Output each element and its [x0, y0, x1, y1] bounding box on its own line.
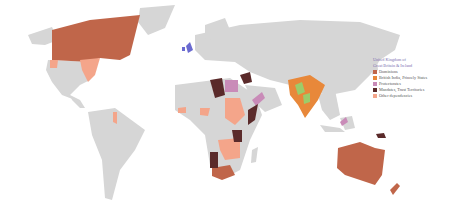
- legend-swatch-icon: [373, 76, 377, 80]
- world-map: [0, 0, 456, 213]
- legend-swatch-icon: [373, 70, 377, 74]
- legend-swatch-icon: [373, 88, 377, 92]
- legend-item-other-dependencies: Other dependencies: [373, 93, 427, 99]
- british-india-territory: [288, 75, 325, 118]
- map-legend: United Kingdom of Great Britain & Irelan…: [373, 57, 427, 99]
- united-kingdom-territory: [182, 42, 193, 53]
- legend-swatch-icon: [373, 82, 377, 86]
- legend-label: Other dependencies: [379, 93, 412, 99]
- legend-swatch-icon: [373, 94, 377, 98]
